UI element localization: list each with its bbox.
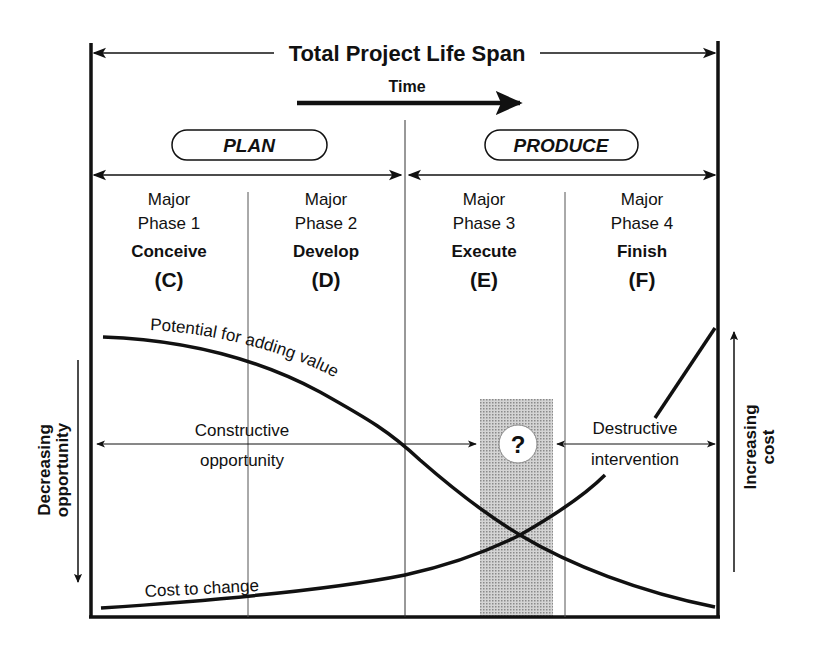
plan-label: PLAN [223, 135, 276, 156]
phase-4-number: Phase 4 [611, 214, 673, 233]
phase-4-name: Finish [617, 242, 667, 261]
phase-3-name: Execute [451, 242, 516, 261]
time-label: Time [388, 78, 425, 95]
phase-2-major: Major [305, 190, 348, 209]
phase-2-number: Phase 2 [295, 214, 357, 233]
phase-3-code: (E) [470, 268, 498, 291]
left-axis-label-line2: opportunity [53, 422, 72, 517]
left-axis-label-line1: Decreasing [35, 424, 54, 516]
right-axis-label-line2: cost [759, 429, 778, 464]
phase-3-label: Major Phase 3 Execute (E) [451, 190, 516, 291]
constructive-label-line1: Constructive [195, 421, 289, 440]
cost-to-change-curve-tail [655, 328, 715, 418]
diagram-title: Total Project Life Span [289, 41, 526, 66]
phase-3-number: Phase 3 [453, 214, 515, 233]
destructive-label-line2: intervention [591, 450, 679, 469]
value-curve-label: Potential for adding value [150, 315, 342, 381]
right-axis-label-line1: Increasing [741, 404, 760, 489]
phase-1-name: Conceive [131, 242, 207, 261]
value-curve-label-text: Potential for adding value [150, 315, 342, 381]
question-mark: ? [511, 431, 526, 458]
phase-4-code: (F) [629, 268, 656, 291]
phase-1-major: Major [148, 190, 191, 209]
phase-1-label: Major Phase 1 Conceive (C) [131, 190, 207, 291]
phase-2-label: Major Phase 2 Develop (D) [293, 190, 359, 291]
project-lifecycle-diagram: Total Project Life Span Time PLAN PRODUC… [0, 0, 813, 651]
phase-2-name: Develop [293, 242, 359, 261]
phase-3-major: Major [463, 190, 506, 209]
destructive-label-line1: Destructive [592, 419, 677, 438]
phase-2-code: (D) [311, 268, 340, 291]
phase-1-number: Phase 1 [138, 214, 200, 233]
value-potential-curve [103, 337, 715, 607]
produce-label: PRODUCE [513, 135, 609, 156]
constructive-label-line2: opportunity [200, 451, 285, 470]
phase-4-label: Major Phase 4 Finish (F) [611, 190, 673, 291]
phase-1-code: (C) [154, 268, 183, 291]
phase-4-major: Major [621, 190, 664, 209]
